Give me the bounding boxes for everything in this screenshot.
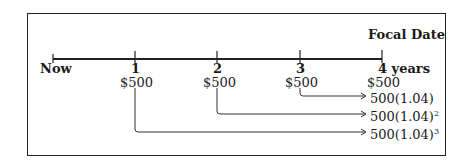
timeline-label-2: 2 bbox=[213, 62, 222, 76]
timeline-label-1: 1 bbox=[131, 62, 140, 76]
accumulation-arrows bbox=[135, 88, 365, 132]
accumulated-value-1: 500(1.04) bbox=[370, 89, 434, 106]
payment-1: $500 bbox=[120, 76, 153, 90]
timeline-label-3: 3 bbox=[296, 62, 305, 76]
payment-2: $500 bbox=[203, 76, 236, 90]
timeline-label-4: 4 years bbox=[378, 62, 430, 76]
payment-3: $500 bbox=[285, 76, 318, 90]
accumulated-value-3: 500(1.04)3 bbox=[370, 125, 439, 142]
timeline-label-now: Now bbox=[40, 62, 72, 76]
accumulated-value-2: 500(1.04)2 bbox=[370, 107, 439, 124]
payment-4: $500 bbox=[367, 76, 400, 90]
focal-date-label: Focal Date bbox=[368, 28, 445, 42]
